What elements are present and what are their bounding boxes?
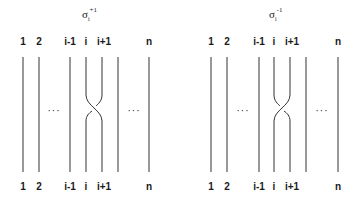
bottom-label-i: i xyxy=(85,181,88,192)
braid-strands xyxy=(177,0,354,203)
bottom-label-i-minus-1: i-1 xyxy=(253,181,265,192)
bottom-label-2: 2 xyxy=(224,181,230,192)
ellipsis-right: ··· xyxy=(316,105,329,116)
braid-generator-negative: σi-1 1 2 i-1 i i+1 n ··· ··· 1 2 i-1 i i… xyxy=(177,0,354,203)
bottom-label-1: 1 xyxy=(20,181,26,192)
strand-under-bottom xyxy=(86,111,92,172)
bottom-label-n: n xyxy=(146,181,152,192)
braid-strands xyxy=(0,0,177,203)
bottom-label-i-plus-1: i+1 xyxy=(97,181,111,192)
ellipsis-right: ··· xyxy=(128,105,141,116)
bottom-label-i-plus-1: i+1 xyxy=(285,181,299,192)
strand-under-top xyxy=(274,57,280,106)
strand-under-bottom xyxy=(284,111,290,172)
bottom-label-1: 1 xyxy=(208,181,214,192)
braid-generator-positive: σi+1 1 2 i-1 i i+1 n ··· ··· 1 2 i-1 i i… xyxy=(0,0,177,203)
bottom-label-2: 2 xyxy=(36,181,42,192)
bottom-label-i: i xyxy=(273,181,276,192)
strand-under-top xyxy=(96,57,102,106)
ellipsis-left: ··· xyxy=(237,105,250,116)
bottom-label-n: n xyxy=(335,181,341,192)
ellipsis-left: ··· xyxy=(48,105,61,116)
bottom-label-i-minus-1: i-1 xyxy=(64,181,76,192)
